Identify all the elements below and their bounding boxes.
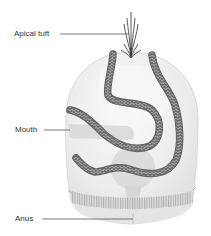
mouth-label: Mouth: [15, 125, 37, 135]
apical-tuft-icon: [121, 12, 141, 58]
anus-label: Anus: [15, 214, 33, 224]
apical-tuft-label: Apical tuft: [14, 29, 49, 39]
larva-diagram: Apical tuft Mouth Anus: [0, 0, 211, 236]
